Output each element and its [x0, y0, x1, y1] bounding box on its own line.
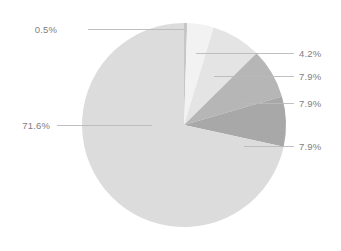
slice-percent-label: 7.9% — [299, 142, 321, 152]
slice-percent-label: 7.9% — [299, 99, 321, 109]
slice-percent-label: 71.6% — [0, 121, 50, 131]
slice-percent-label: 4.2% — [299, 49, 321, 59]
pie-chart-canvas — [0, 0, 341, 251]
pie-chart: 0.5%4.2%7.9%7.9%7.9%71.6% — [0, 0, 341, 251]
slice-percent-label: 7.9% — [299, 72, 321, 82]
slice-percent-label: 0.5% — [0, 25, 57, 35]
